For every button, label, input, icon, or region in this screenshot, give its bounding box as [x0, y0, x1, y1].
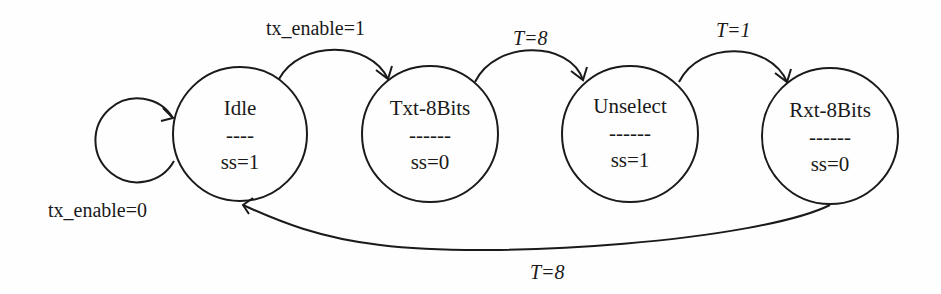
- transition-rxt-to-idle: [243, 205, 830, 250]
- state-diagram: Idle ---- ss=1 Txt-8Bits ------ ss=0 Uns…: [0, 0, 941, 294]
- state-output: ss=1: [172, 152, 308, 173]
- transition-unselect-to-rxt: [679, 51, 787, 82]
- state-output: ss=1: [562, 150, 698, 171]
- state-name: Rxt-8Bits: [762, 100, 898, 121]
- label-t8-top: T=8: [513, 28, 548, 48]
- label-tx-enable-1: tx_enable=1: [266, 18, 365, 38]
- state-divider: ----: [172, 125, 308, 146]
- state-output: ss=0: [762, 154, 898, 175]
- state-name: Idle: [172, 98, 308, 119]
- state-divider: ------: [362, 125, 498, 146]
- state-output: ss=0: [362, 152, 498, 173]
- state-idle: Idle ---- ss=1: [172, 98, 308, 173]
- state-name: Txt-8Bits: [362, 98, 498, 119]
- transition-idle-to-txt: [279, 50, 388, 79]
- state-txt: Txt-8Bits ------ ss=0: [362, 98, 498, 173]
- label-tx-enable-0: tx_enable=0: [48, 200, 147, 220]
- state-rxt: Rxt-8Bits ------ ss=0: [762, 100, 898, 175]
- transition-idle-self-loop: [95, 98, 174, 182]
- label-t8-bottom: T=8: [530, 262, 565, 282]
- state-divider: ------: [562, 123, 698, 144]
- arrowhead-icon: [571, 67, 587, 80]
- state-name: Unselect: [562, 96, 698, 117]
- state-unselect: Unselect ------ ss=1: [562, 96, 698, 171]
- state-divider: ------: [762, 127, 898, 148]
- label-t1: T=1: [716, 20, 751, 40]
- transition-txt-to-unselect: [475, 50, 583, 82]
